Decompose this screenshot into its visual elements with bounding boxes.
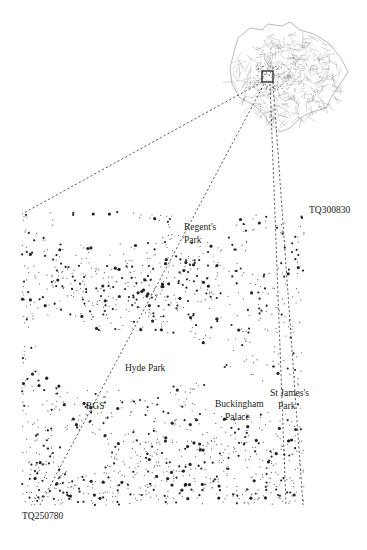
- density-dot: [296, 288, 297, 289]
- density-dot: [30, 304, 31, 305]
- density-dot: [96, 273, 97, 274]
- density-dot: [228, 453, 229, 454]
- density-dot: [85, 305, 86, 306]
- density-dot: [202, 503, 203, 504]
- density-dot: [64, 473, 66, 475]
- density-dot: [194, 481, 195, 482]
- density-dot: [61, 285, 63, 287]
- density-dot: [56, 308, 57, 309]
- density-dot: [179, 449, 180, 450]
- density-dot: [155, 295, 156, 296]
- density-dot: [254, 499, 255, 500]
- density-dot: [223, 452, 224, 453]
- density-dot: [194, 478, 195, 479]
- density-dot: [287, 419, 289, 421]
- density-dot: [139, 307, 140, 308]
- density-dot: [162, 242, 163, 243]
- density-dot: [289, 374, 290, 375]
- density-dot: [159, 444, 160, 445]
- density-dot: [187, 300, 189, 302]
- density-dot: [210, 326, 212, 328]
- density-dot: [276, 486, 277, 487]
- density-dot: [272, 288, 273, 289]
- density-dot: [36, 439, 37, 440]
- density-dot: [266, 305, 268, 307]
- density-dot: [112, 308, 114, 310]
- density-dot: [192, 327, 193, 328]
- density-dot: [65, 472, 66, 473]
- density-dot: [65, 427, 66, 428]
- density-dot: [243, 299, 244, 300]
- density-dot: [144, 400, 145, 401]
- density-dot: [278, 427, 281, 430]
- density-dot: [156, 453, 157, 454]
- density-dot: [213, 294, 214, 295]
- density-dot: [190, 392, 191, 393]
- density-dot: [245, 250, 246, 251]
- density-dot: [244, 338, 245, 339]
- density-dot: [130, 401, 131, 402]
- density-dot: [183, 475, 184, 476]
- density-dot: [23, 294, 24, 295]
- density-dot: [81, 258, 82, 259]
- density-dot: [24, 265, 25, 266]
- density-dot: [261, 430, 262, 431]
- density-dot: [190, 489, 192, 491]
- density-dot: [77, 398, 78, 399]
- density-dot: [123, 461, 124, 462]
- density-dot: [266, 467, 267, 468]
- density-dot: [80, 315, 83, 318]
- density-dot: [83, 247, 84, 248]
- density-dot: [137, 306, 139, 308]
- density-dot: [167, 491, 168, 492]
- density-dot: [145, 485, 146, 486]
- density-dot: [21, 390, 23, 392]
- density-dot: [178, 399, 179, 400]
- density-dot: [175, 255, 177, 257]
- density-dot: [25, 214, 27, 216]
- density-dot: [100, 295, 102, 297]
- density-dot: [216, 437, 217, 438]
- density-dot: [52, 259, 54, 261]
- density-dot: [141, 282, 142, 283]
- density-dot: [62, 502, 63, 503]
- density-dot: [67, 425, 68, 426]
- density-dot: [233, 249, 235, 251]
- density-dot: [291, 480, 292, 481]
- density-dot: [167, 332, 168, 333]
- density-dot: [160, 215, 161, 216]
- density-dot: [132, 448, 133, 449]
- density-dot: [207, 289, 208, 290]
- density-dot: [230, 435, 231, 436]
- density-dot: [146, 484, 147, 485]
- density-dot: [26, 451, 27, 452]
- density-dot: [186, 398, 187, 399]
- density-dot: [95, 269, 96, 270]
- density-dot: [100, 330, 101, 331]
- density-dot: [223, 502, 224, 503]
- density-dot: [30, 464, 32, 466]
- density-dot: [26, 492, 27, 493]
- density-dot: [39, 461, 42, 464]
- density-dot: [211, 448, 212, 449]
- grid-ref-top-right: TQ300830: [309, 205, 350, 215]
- density-dot: [232, 496, 233, 497]
- density-dot: [110, 288, 111, 289]
- density-dot: [32, 501, 33, 502]
- density-dot: [129, 503, 130, 504]
- density-dot: [47, 496, 48, 497]
- density-dot: [242, 275, 243, 276]
- density-dot: [22, 292, 23, 293]
- density-dot: [79, 425, 80, 426]
- density-dot: [220, 317, 221, 318]
- density-dot: [137, 463, 138, 464]
- density-dot: [67, 295, 68, 296]
- density-dot: [53, 280, 54, 281]
- density-dot: [128, 311, 129, 312]
- density-dot: [275, 488, 277, 490]
- density-dot: [82, 298, 84, 300]
- density-dot: [254, 229, 255, 230]
- density-dot: [130, 457, 131, 458]
- density-dot: [54, 304, 55, 305]
- density-dot: [286, 491, 288, 493]
